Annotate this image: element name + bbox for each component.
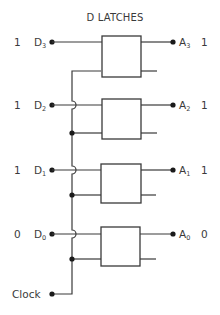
- output-terminal-a1: [170, 167, 175, 172]
- input-label-d2: D2: [34, 99, 46, 113]
- latch-box-0: [101, 227, 140, 266]
- clock-junction-1: [69, 192, 74, 197]
- output-value-a2: 1: [201, 99, 208, 111]
- output-label-a1: A1: [179, 164, 190, 178]
- input-value-d0: 0: [14, 228, 21, 240]
- input-label-d1: D1: [34, 164, 46, 178]
- input-value-d1: 1: [14, 164, 21, 176]
- output-terminal-a0: [170, 231, 175, 236]
- output-value-a1: 1: [201, 164, 208, 176]
- output-value-a0: 0: [201, 228, 208, 240]
- clock-label: Clock: [12, 288, 41, 300]
- output-terminal-a3: [170, 39, 175, 44]
- output-label-a0: A0: [179, 228, 190, 242]
- d-latches-diagram: D LATCHES Clock 1 D3 A3 1 1 D2 A2 1 1 D1: [0, 0, 220, 315]
- latch-0: 0 D0 A0 0: [14, 227, 208, 266]
- latch-2: 1 D2 A2 1: [14, 99, 208, 139]
- output-value-a3: 1: [201, 36, 208, 48]
- input-value-d3: 1: [14, 36, 21, 48]
- latch-box-3: [102, 36, 141, 77]
- clock-junction-2: [69, 130, 74, 135]
- latch-1: 1 D1 A1 1: [14, 164, 208, 203]
- output-terminal-a2: [170, 102, 175, 107]
- input-label-d3: D3: [34, 36, 46, 50]
- latch-box-2: [102, 99, 141, 139]
- input-label-d0: D0: [34, 228, 46, 242]
- latch-3: 1 D3 A3 1: [14, 36, 208, 77]
- diagram-title: D LATCHES: [86, 12, 143, 23]
- output-label-a3: A3: [179, 36, 190, 50]
- clock-terminal: [49, 291, 54, 296]
- input-value-d2: 1: [14, 99, 21, 111]
- latch-box-1: [101, 164, 141, 203]
- output-label-a2: A2: [179, 99, 190, 113]
- clock-junction-0: [69, 256, 74, 261]
